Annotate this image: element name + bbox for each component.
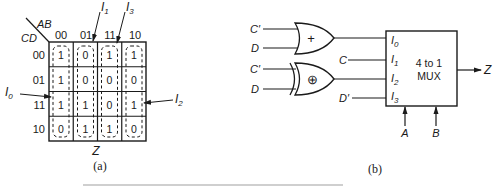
panel-a-label: (a) xyxy=(93,159,106,173)
callout-i0-label: I0 xyxy=(5,85,13,101)
kmap-cell: 1 xyxy=(131,49,137,61)
kmap-col-header: 10 xyxy=(129,29,141,41)
kmap-cell: 1 xyxy=(83,99,89,111)
callout-i2-label: I2 xyxy=(175,92,183,108)
xor-symbol: ⊕ xyxy=(307,72,318,87)
kmap-col-header: 11 xyxy=(104,29,115,41)
kmap-col-var: AB xyxy=(36,18,52,30)
figure: AB CD 00 01 11 10 00 01 11 10 xyxy=(0,0,500,186)
kmap-cell: 1 xyxy=(58,99,64,111)
kmap-row-header: 01 xyxy=(33,74,45,86)
xor-extra-arc xyxy=(290,63,295,95)
kmap-row-header: 00 xyxy=(33,49,45,61)
kmap-cell: 1 xyxy=(107,123,113,135)
kmap-cell: 0 xyxy=(58,123,64,135)
kmap-cell: 0 xyxy=(131,123,137,135)
mux-block: I0 I1 I2 I3 4 to 1 MUX Z A B xyxy=(386,31,492,139)
kmap-cell: 0 xyxy=(107,99,113,111)
callout-arrow-i2 xyxy=(144,100,173,103)
callout-arrow-i3 xyxy=(117,12,125,43)
select-b-label: B xyxy=(432,127,439,139)
i3-input-d-prime: D′ xyxy=(339,92,350,104)
i1-input-c: C xyxy=(339,54,347,66)
select-a-label: A xyxy=(400,127,408,139)
mux-output-label: Z xyxy=(483,63,492,77)
mux-title-line1: 4 to 1 xyxy=(416,57,442,69)
kmap-cell: 0 xyxy=(83,74,89,86)
kmap-cell: 0 xyxy=(131,74,137,86)
callout-i1-label: I1 xyxy=(101,0,109,16)
mux-title-line2: MUX xyxy=(417,70,440,82)
callout-arrow-i1 xyxy=(93,12,100,41)
kmap-col-headers: 00 01 11 10 xyxy=(55,29,141,41)
kmap-cell: 1 xyxy=(58,49,64,61)
kmap-row-header: 11 xyxy=(34,99,45,111)
kmap-panel: AB CD 00 01 11 10 00 01 11 10 xyxy=(5,0,183,173)
kmap-cell: 0 xyxy=(107,74,113,86)
panel-b-label: (b) xyxy=(368,162,382,176)
kmap-col-header: 00 xyxy=(55,29,67,41)
kmap-row-header: 10 xyxy=(33,123,45,135)
kmap-output-label: Z xyxy=(91,144,100,158)
callout-i3-label: I3 xyxy=(126,0,134,16)
kmap-cell: 1 xyxy=(131,99,137,111)
kmap-cell: 1 xyxy=(58,74,64,86)
xor-input-d: D xyxy=(251,83,259,95)
kmap-cell: 0 xyxy=(83,49,89,61)
kmap-cell: 1 xyxy=(107,49,113,61)
or-input-c-prime: C′ xyxy=(250,23,261,35)
kmap-row-var: CD xyxy=(21,32,37,44)
or-input-d: D xyxy=(251,42,259,54)
mux-circuit-panel: C′ D + C′ D ⊕ C D′ I0 I1 I xyxy=(250,23,492,176)
or-symbol: + xyxy=(307,31,315,46)
kmap-col-header: 01 xyxy=(80,29,92,41)
xor-gate: C′ D ⊕ xyxy=(250,63,386,95)
caption-cutoff xyxy=(83,184,343,186)
xor-input-c-prime: C′ xyxy=(250,63,261,75)
callout-arrow-i0 xyxy=(20,94,51,97)
or-gate: C′ D + xyxy=(250,23,386,54)
kmap-row-headers: 00 01 11 10 xyxy=(33,49,45,135)
kmap-cell: 1 xyxy=(83,123,89,135)
